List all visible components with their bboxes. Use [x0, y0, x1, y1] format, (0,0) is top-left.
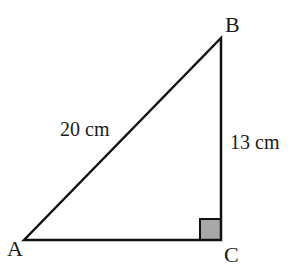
side-bc-length-label: 13 cm	[230, 132, 279, 152]
vertex-label-b: B	[225, 14, 240, 36]
right-angle-marker	[200, 219, 221, 240]
triangle-diagram: A B C 20 cm 13 cm	[0, 0, 294, 269]
triangle-abc	[24, 38, 221, 240]
vertex-label-a: A	[7, 238, 23, 260]
vertex-label-c: C	[224, 244, 239, 266]
hypotenuse-length-label: 20 cm	[60, 119, 109, 139]
